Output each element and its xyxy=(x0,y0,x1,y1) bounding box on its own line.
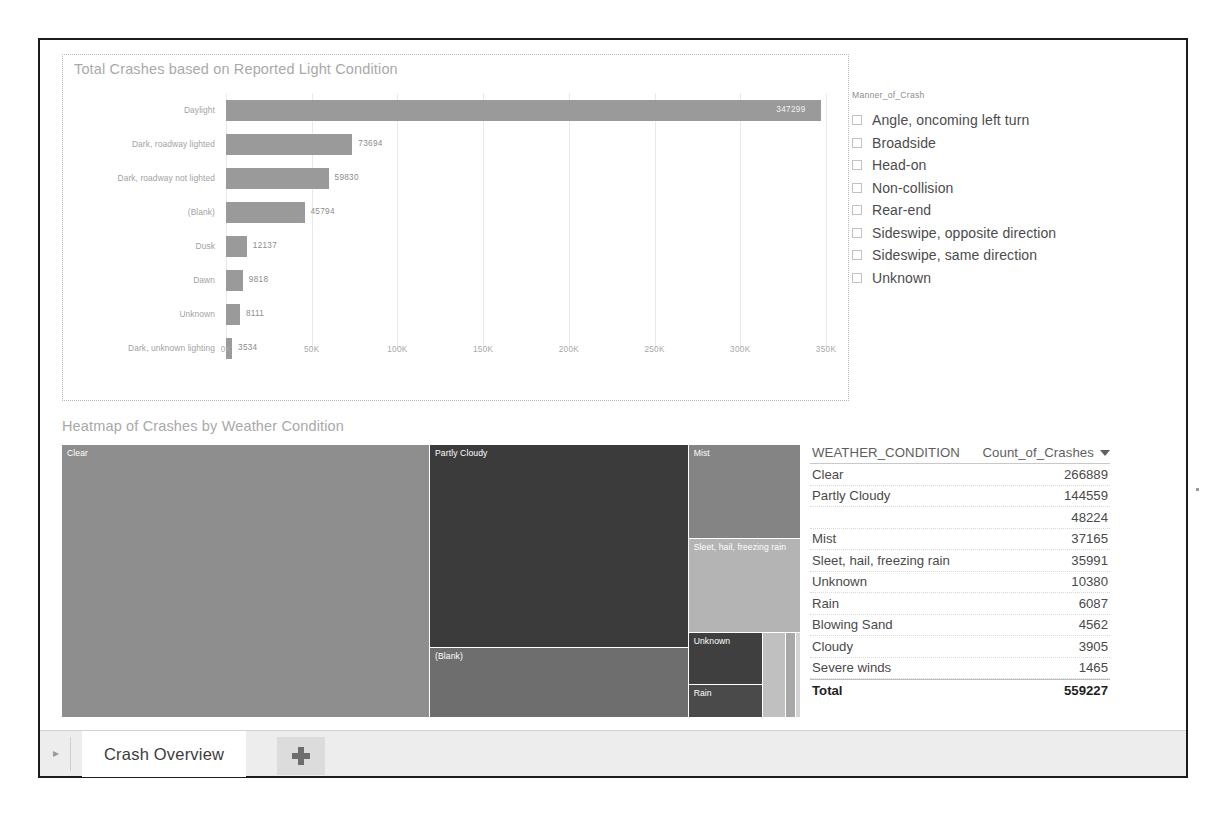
slicer-item-label: Broadside xyxy=(872,135,936,151)
x-axis-tick-label: 350K xyxy=(816,345,836,354)
checkbox-icon[interactable] xyxy=(852,115,862,125)
treemap-tile-label: Mist xyxy=(694,448,710,458)
slicer-item[interactable]: Unknown xyxy=(852,267,1152,290)
bar-row[interactable]: Dusk12137 xyxy=(63,231,850,261)
bar-chart-title: Total Crashes based on Reported Light Co… xyxy=(74,61,398,77)
bar[interactable] xyxy=(226,236,247,257)
bar-value-label: 12137 xyxy=(253,231,277,261)
weather-condition-table[interactable]: WEATHER_CONDITION Count_of_Crashes Clear… xyxy=(810,445,1110,701)
sort-descending-icon[interactable] xyxy=(1100,450,1110,456)
bar-chart-plot-area: Daylight347299Dark, roadway lighted73694… xyxy=(63,93,850,383)
bar-value-label: 8111 xyxy=(246,299,264,329)
table-row[interactable]: Rain6087 xyxy=(810,593,1110,615)
table-header-row: WEATHER_CONDITION Count_of_Crashes xyxy=(810,445,1110,464)
slicer-item[interactable]: Sideswipe, same direction xyxy=(852,244,1152,267)
slicer-item[interactable]: Sideswipe, opposite direction xyxy=(852,222,1152,245)
checkbox-icon[interactable] xyxy=(852,205,862,215)
treemap-tile-label: (Blank) xyxy=(435,651,463,661)
treemap-tile[interactable]: Mist xyxy=(689,445,801,539)
table-row[interactable]: Blowing Sand4562 xyxy=(810,615,1110,637)
x-axis-tick-label: 250K xyxy=(644,345,664,354)
treemap-tile[interactable]: Partly Cloudy xyxy=(430,445,689,648)
table-row[interactable]: Severe winds1465 xyxy=(810,658,1110,680)
bar-row[interactable]: Daylight347299 xyxy=(63,95,850,125)
bar-row[interactable]: Dawn9818 xyxy=(63,265,850,295)
table-cell-count: 266889 xyxy=(1064,467,1108,482)
bar-row[interactable]: Unknown8111 xyxy=(63,299,850,329)
treemap-tile[interactable]: Rain xyxy=(689,685,763,718)
treemap-tile[interactable]: (Blank) xyxy=(430,648,689,718)
bar-category-label: Unknown xyxy=(63,299,215,329)
bar[interactable] xyxy=(226,100,821,121)
bar[interactable] xyxy=(226,202,305,223)
tab-crash-overview[interactable]: Crash Overview xyxy=(82,731,246,777)
checkbox-icon[interactable] xyxy=(852,273,862,283)
treemap-tile-label: Partly Cloudy xyxy=(435,448,487,458)
slicer-item[interactable]: Rear-end xyxy=(852,199,1152,222)
slicer-item-list: Angle, oncoming left turnBroadsideHead-o… xyxy=(852,109,1152,289)
table-row[interactable]: 48224 xyxy=(810,507,1110,529)
plus-icon xyxy=(292,747,310,765)
slicer-item[interactable]: Angle, oncoming left turn xyxy=(852,109,1152,132)
table-row[interactable]: Partly Cloudy144559 xyxy=(810,486,1110,508)
table-row[interactable]: Unknown10380 xyxy=(810,572,1110,594)
table-cell-condition: Mist xyxy=(812,531,836,546)
table-total-value: 559227 xyxy=(1064,683,1108,698)
treemap-tile[interactable]: Clear xyxy=(62,445,430,718)
x-axis-tick-label: 300K xyxy=(730,345,750,354)
bar-chart-x-axis: 0K50K100K150K200K250K300K350K xyxy=(63,345,850,365)
treemap-tile[interactable] xyxy=(786,633,796,718)
table-cell-condition: Blowing Sand xyxy=(812,617,893,632)
bar-category-label: (Blank) xyxy=(63,197,215,227)
slicer-item-label: Sideswipe, opposite direction xyxy=(872,225,1056,241)
treemap-tile-label: Rain xyxy=(694,688,712,698)
slicer-item[interactable]: Head-on xyxy=(852,154,1152,177)
table-cell-count: 37165 xyxy=(1071,531,1108,546)
table-header-condition[interactable]: WEATHER_CONDITION xyxy=(812,445,960,460)
x-axis-tick-label: 100K xyxy=(387,345,407,354)
table-header-count-label: Count_of_Crashes xyxy=(982,445,1094,460)
weather-condition-treemap[interactable]: ClearPartly Cloudy(Blank)MistSleet, hail… xyxy=(62,445,801,718)
checkbox-icon[interactable] xyxy=(852,228,862,238)
table-row[interactable]: Mist37165 xyxy=(810,529,1110,551)
bar[interactable] xyxy=(226,270,243,291)
table-total-label: Total xyxy=(812,683,843,698)
table-row[interactable]: Clear266889 xyxy=(810,464,1110,486)
table-cell-count: 1465 xyxy=(1079,660,1108,675)
light-condition-bar-chart-panel[interactable]: Total Crashes based on Reported Light Co… xyxy=(62,54,849,401)
treemap-tile[interactable]: Unknown xyxy=(689,633,763,685)
table-header-count[interactable]: Count_of_Crashes xyxy=(982,445,1108,460)
treemap-tile-label: Sleet, hail, freezing rain xyxy=(694,542,786,552)
table-cell-condition: Severe winds xyxy=(812,660,891,675)
bar-row[interactable]: (Blank)45794 xyxy=(63,197,850,227)
bar-category-label: Dawn xyxy=(63,265,215,295)
manner-of-crash-slicer[interactable]: Manner_of_Crash Angle, oncoming left tur… xyxy=(852,90,1152,289)
table-row[interactable]: Sleet, hail, freezing rain35991 xyxy=(810,550,1110,572)
slicer-item[interactable]: Non-collision xyxy=(852,177,1152,200)
treemap-tile[interactable] xyxy=(796,633,801,718)
table-cell-count: 35991 xyxy=(1071,553,1108,568)
treemap-tile[interactable]: Sleet, hail, freezing rain xyxy=(689,539,801,633)
checkbox-icon[interactable] xyxy=(852,250,862,260)
table-row[interactable]: Cloudy3905 xyxy=(810,636,1110,658)
treemap-tile[interactable] xyxy=(763,633,787,718)
bar-row[interactable]: Dark, roadway lighted73694 xyxy=(63,129,850,159)
checkbox-icon[interactable] xyxy=(852,160,862,170)
slicer-item-label: Non-collision xyxy=(872,180,953,196)
slicer-header-label: Manner_of_Crash xyxy=(852,90,1152,100)
bar-row[interactable]: Dark, roadway not lighted59830 xyxy=(63,163,850,193)
table-cell-count: 10380 xyxy=(1071,574,1108,589)
page-artifact-dot xyxy=(1196,488,1199,491)
checkbox-icon[interactable] xyxy=(852,183,862,193)
bar[interactable] xyxy=(226,168,329,189)
bar[interactable] xyxy=(226,134,352,155)
tab-nav-next-icon[interactable]: ▸ xyxy=(48,745,64,761)
bar-category-label: Dark, roadway not lighted xyxy=(63,163,215,193)
slicer-item[interactable]: Broadside xyxy=(852,132,1152,155)
table-cell-condition: Cloudy xyxy=(812,639,853,654)
bar[interactable] xyxy=(226,304,240,325)
checkbox-icon[interactable] xyxy=(852,138,862,148)
table-cell-condition: Unknown xyxy=(812,574,867,589)
add-sheet-button[interactable] xyxy=(277,737,325,775)
bar-value-label: 73694 xyxy=(358,129,382,159)
